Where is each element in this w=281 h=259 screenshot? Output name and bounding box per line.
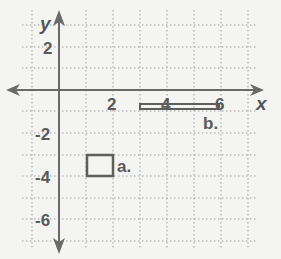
x-tick-2: 2: [107, 95, 116, 114]
y-tick-neg2: -2: [35, 125, 50, 144]
grid: [22, 10, 258, 250]
coordinate-plane: y x 2 4 6 2 -2 -4 -6 b. a.: [0, 0, 281, 259]
rectangle-b-label: b.: [203, 114, 218, 133]
x-axis-label: x: [255, 93, 268, 114]
y-tick-2: 2: [43, 39, 52, 58]
y-axis-label: y: [39, 13, 52, 34]
y-tick-neg4: -4: [35, 168, 51, 187]
y-tick-neg6: -6: [35, 211, 50, 230]
rectangle-b: [140, 104, 219, 109]
rectangle-a: [87, 155, 113, 176]
rectangle-a-label: a.: [117, 157, 131, 176]
